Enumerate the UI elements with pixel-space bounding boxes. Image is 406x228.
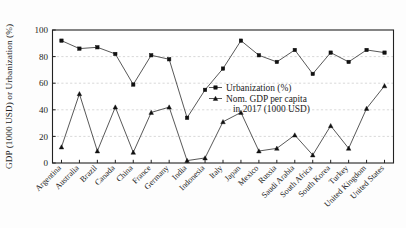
y-tick-label-0: 0 — [44, 158, 49, 168]
data-point-urbanization-japan — [239, 39, 242, 42]
data-point-urbanization-turkey — [347, 60, 350, 63]
data-point-urbanization-france — [150, 54, 153, 57]
legend-label-gdp-line2: in 2017 (1000 USD) — [233, 104, 310, 115]
data-point-urbanization-saudi-arabia — [293, 48, 296, 51]
legend-label-gdp-line1: Nom. GDP per capita — [226, 94, 308, 104]
data-point-urbanization-canada — [114, 52, 117, 55]
y-axis-title: GDP (1000 USD) or Urbanization (%) — [4, 24, 14, 169]
y-tick-label-20: 20 — [39, 132, 49, 142]
legend-label-urbanization: Urbanization (%) — [226, 83, 291, 94]
line-chart-canvas: 020406080100GDP (1000 USD) or Urbanizati… — [0, 0, 406, 228]
y-tick-label-60: 60 — [39, 78, 49, 88]
y-tick-label-40: 40 — [39, 105, 49, 115]
x-category-label-canada: Canada — [93, 163, 117, 187]
data-point-urbanization-argentina — [60, 39, 63, 42]
data-point-urbanization-china — [132, 83, 135, 86]
data-point-urbanization-germany — [167, 58, 170, 61]
data-point-urbanization-south-africa — [311, 72, 314, 75]
data-point-urbanization-russia — [275, 60, 278, 63]
legend-marker-urbanization — [214, 86, 217, 89]
data-point-urbanization-brazil — [96, 46, 99, 49]
chart-figure: 020406080100GDP (1000 USD) or Urbanizati… — [0, 0, 406, 228]
y-tick-label-100: 100 — [35, 25, 49, 35]
data-point-urbanization-united-kingdom — [365, 48, 368, 51]
data-point-urbanization-australia — [78, 47, 81, 50]
data-point-urbanization-india — [185, 116, 188, 119]
y-tick-label-80: 80 — [39, 52, 49, 62]
data-point-urbanization-south-korea — [329, 51, 332, 54]
x-category-label-italy: Italy — [207, 163, 225, 181]
data-point-urbanization-indonesia — [203, 88, 206, 91]
data-point-urbanization-italy — [221, 67, 224, 70]
data-point-urbanization-united-states — [383, 51, 386, 54]
data-point-urbanization-mexico — [257, 54, 260, 57]
x-category-label-mexico: Mexico — [236, 164, 260, 188]
